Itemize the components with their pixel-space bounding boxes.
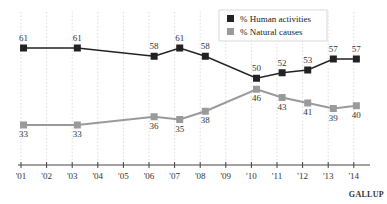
line-chart: '01'02'03'04'05'06'07'08'09'10'11'12'13'… [0, 0, 387, 204]
data-label: 36 [150, 121, 160, 131]
data-label: 38 [201, 115, 211, 125]
legend-swatch [227, 15, 234, 22]
data-label: 53 [303, 55, 313, 65]
data-label: 52 [278, 58, 287, 68]
data-point [202, 108, 209, 115]
data-point [151, 113, 158, 120]
x-tick-label: '08 [195, 171, 206, 181]
data-label: 58 [201, 41, 211, 51]
data-point [279, 69, 286, 76]
data-label: 57 [329, 44, 339, 54]
data-label: 57 [352, 44, 362, 54]
data-point [353, 102, 360, 109]
x-tick-label: '10 [246, 171, 257, 181]
data-point [20, 122, 27, 129]
data-label: 61 [19, 33, 28, 43]
data-point [253, 86, 260, 93]
data-point [151, 53, 158, 60]
x-tick-label: '09 [220, 171, 231, 181]
data-label: 43 [278, 102, 288, 112]
series-natural-causes: 33333635384643413940 [19, 86, 361, 139]
source-label: GALLUP [349, 190, 384, 199]
data-point [74, 45, 81, 52]
x-tick-label: '12 [297, 171, 308, 181]
data-label: 58 [150, 41, 160, 51]
data-point [202, 53, 209, 60]
x-tick-label: '01 [16, 171, 27, 181]
x-tick-label: '05 [118, 171, 129, 181]
data-label: 61 [73, 33, 82, 43]
x-tick-label: '02 [41, 171, 52, 181]
x-tick-label: '07 [169, 171, 180, 181]
data-label: 41 [303, 107, 312, 117]
data-point [176, 45, 183, 52]
data-point [74, 122, 81, 129]
x-tick-label: '11 [272, 171, 282, 181]
legend-label: % Human activities [240, 14, 311, 24]
x-tick-label: '03 [67, 171, 78, 181]
data-label: 40 [352, 110, 362, 120]
data-point [20, 45, 27, 52]
data-label: 39 [329, 113, 339, 123]
data-point [253, 75, 260, 82]
data-label: 33 [73, 129, 83, 139]
data-point [176, 116, 183, 123]
x-tick-label: '13 [323, 171, 334, 181]
data-point [279, 94, 286, 101]
series-group: 6161586158505253575733333635384643413940 [19, 33, 361, 139]
data-point [330, 56, 337, 63]
data-label: 35 [175, 124, 185, 134]
data-label: 46 [252, 93, 262, 103]
data-point [353, 56, 360, 63]
legend: % Human activities% Natural causes [219, 10, 327, 41]
data-point [304, 67, 311, 74]
data-label: 50 [252, 63, 262, 73]
data-point [304, 100, 311, 107]
x-tick-label: '14 [348, 171, 359, 181]
data-label: 33 [19, 129, 29, 139]
x-axis: '01'02'03'04'05'06'07'08'09'10'11'12'13'… [16, 162, 370, 181]
legend-swatch [227, 28, 234, 35]
legend-label: % Natural causes [240, 27, 303, 37]
data-label: 61 [175, 33, 184, 43]
x-tick-label: '06 [144, 171, 155, 181]
x-tick-label: '04 [92, 171, 103, 181]
data-point [330, 105, 337, 112]
